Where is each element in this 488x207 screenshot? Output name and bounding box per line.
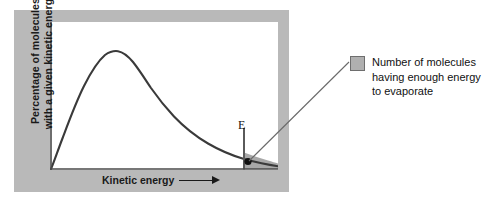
legend-text: Number of molecules having enough energy… — [372, 55, 481, 99]
distribution-chart — [50, 22, 278, 170]
y-axis-label-line1: Percentage of molecules — [29, 0, 42, 141]
legend-text-line1: Number of molecules — [372, 55, 481, 70]
figure-panel: E Percentage of molecules with a given k… — [14, 10, 289, 192]
y-axis-label-line2: with a given kinetic energy — [42, 0, 55, 141]
gray-square-swatch-icon — [350, 56, 365, 71]
plot-area — [50, 22, 278, 170]
x-axis-label: Kinetic energy — [102, 174, 221, 186]
callout-marker-dot — [244, 158, 251, 165]
legend: Number of molecules having enough energy… — [350, 55, 481, 99]
x-axis-label-text: Kinetic energy — [102, 174, 174, 186]
legend-text-line3: to evaporate — [372, 84, 481, 99]
y-axis-label: Percentage of molecules with a given kin… — [29, 0, 55, 141]
legend-text-line2: having enough energy — [372, 70, 481, 85]
threshold-label-E: E — [238, 118, 245, 133]
right-arrow-icon — [179, 176, 221, 184]
